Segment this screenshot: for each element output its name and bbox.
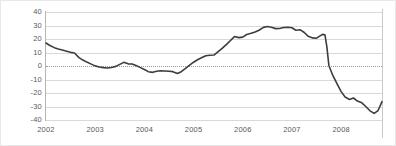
y-axis-tick-label: 40: [2, 8, 42, 16]
x-axis-tick-label: 2002: [26, 125, 66, 134]
x-axis-tick-label: 2003: [75, 125, 115, 134]
x-axis-tick-label: 2008: [321, 125, 361, 134]
x-axis-tick-label: 2004: [124, 125, 164, 134]
y-axis-tick-label: 10: [2, 49, 42, 57]
y-axis-tick-label: 20: [2, 35, 42, 43]
y-axis-tick-label: -10: [2, 76, 42, 84]
y-axis-tick-label: -20: [2, 89, 42, 97]
x-axis-tick-label: 2007: [272, 125, 312, 134]
y-axis-tick-labels: 403020100-10-20-30-40: [1, 12, 42, 120]
right-axis-line: [382, 9, 383, 138]
y-axis-tick-label: -30: [2, 103, 42, 111]
line-chart: 403020100-10-20-30-40 200220032004200520…: [0, 0, 396, 146]
y-axis-tick-label: 0: [2, 62, 42, 70]
plot-area: [46, 12, 382, 120]
y-axis-tick-label: 30: [2, 22, 42, 30]
series-line-1: [46, 12, 382, 120]
x-axis-tick-label: 2006: [223, 125, 263, 134]
gridline: [46, 120, 382, 121]
x-axis-tick-label: 2005: [174, 125, 214, 134]
x-axis-tick-labels: 2002200320042005200620072008: [46, 125, 382, 139]
y-axis-tick-label: -40: [2, 116, 42, 124]
